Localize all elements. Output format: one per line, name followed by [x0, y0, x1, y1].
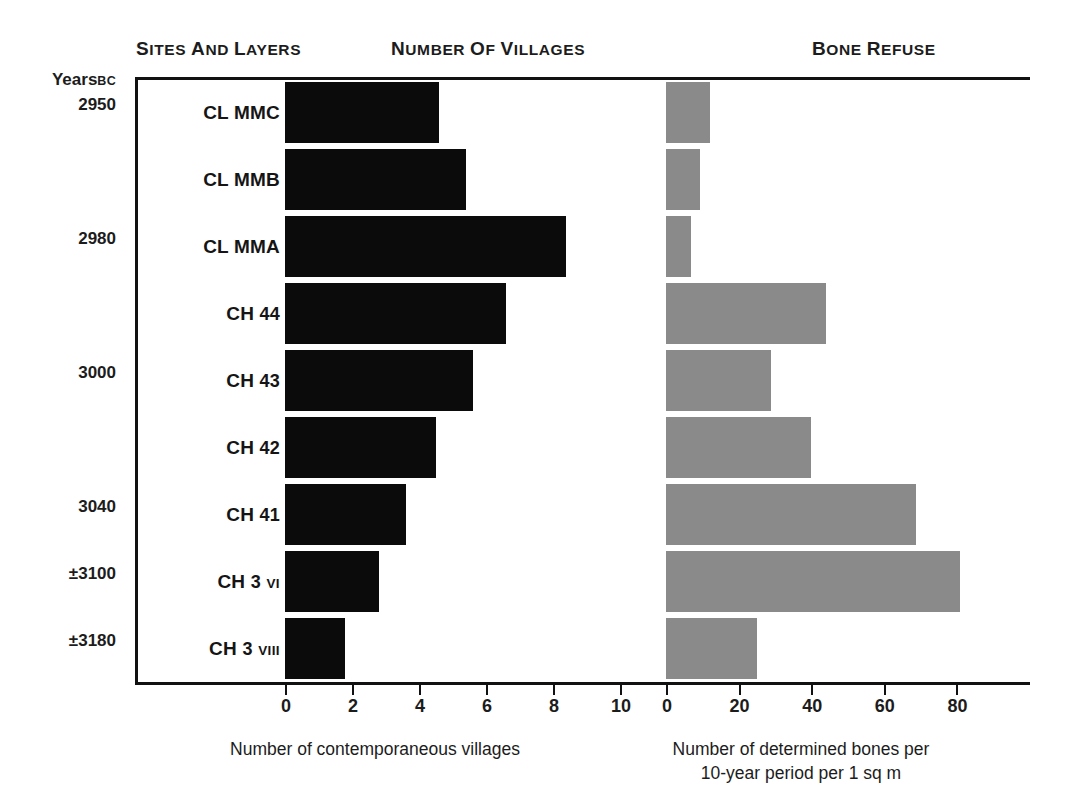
chart-row: CL MMA — [0, 213, 1068, 280]
bar-villages — [285, 216, 566, 277]
bones-axis-tick-mark — [811, 684, 813, 695]
row-label-ch: CH 42 — [150, 437, 280, 459]
bones-axis-tick-label: 40 — [802, 696, 822, 717]
caption-villages: Number of contemporaneous villages — [215, 738, 535, 762]
bar-villages — [285, 283, 506, 344]
bar-villages — [285, 350, 473, 411]
bones-axis-tick-mark — [956, 684, 958, 695]
bar-bone-refuse — [666, 149, 700, 210]
chart-row: CL MMB — [0, 146, 1068, 213]
chart-row: CH 42 — [0, 414, 1068, 481]
bones-axis-tick-label: 80 — [947, 696, 967, 717]
row-label-ch: CH 3 VI — [150, 571, 280, 593]
bar-bone-refuse — [666, 417, 811, 478]
chart-row: CH 43 — [0, 347, 1068, 414]
column-heading-bone-refuse: BONE REFUSE — [812, 38, 936, 60]
bones-axis-tick-mark — [884, 684, 886, 695]
chart-row: CL MMC — [0, 79, 1068, 146]
villages-axis-tick-mark — [486, 684, 488, 695]
row-label-ch: CH 43 — [150, 370, 280, 392]
bar-villages — [285, 149, 466, 210]
bar-bone-refuse — [666, 350, 771, 411]
chart-row: CH 41 — [0, 481, 1068, 548]
bones-axis-tick-label: 0 — [662, 696, 672, 717]
bar-villages — [285, 417, 436, 478]
chart-row: CH 44 — [0, 280, 1068, 347]
chart-figure: SITES aND LAYERS NUMBER oF VILLAGES BONE… — [0, 0, 1068, 794]
bar-villages — [285, 82, 439, 143]
villages-axis-tick-mark — [620, 684, 622, 695]
villages-axis-tick-label: 10 — [611, 696, 631, 717]
bar-bone-refuse — [666, 484, 916, 545]
row-label-ch: CH 44 — [150, 303, 280, 325]
bar-bone-refuse — [666, 216, 691, 277]
chart-row: CH 3 VI — [0, 548, 1068, 615]
villages-axis-tick-label: 8 — [549, 696, 559, 717]
caption-bones-line2: 10-year period per 1 sq m — [636, 762, 966, 786]
bar-bone-refuse — [666, 283, 826, 344]
villages-axis-tick-mark — [352, 684, 354, 695]
bones-axis-tick-label: 60 — [875, 696, 895, 717]
caption-bones-line1: Number of determined bones per — [636, 738, 966, 762]
bar-bone-refuse — [666, 82, 710, 143]
villages-axis-tick-label: 0 — [281, 696, 291, 717]
chart-row: CH 3 VIII — [0, 615, 1068, 682]
row-label-ch: CH 41 — [150, 504, 280, 526]
bones-axis-tick-label: 20 — [730, 696, 750, 717]
row-label-ch: CH 3 VIII — [150, 638, 280, 660]
column-heading-number-of-villages: NUMBER oF VILLAGES — [391, 38, 585, 60]
bar-bone-refuse — [666, 618, 757, 679]
bones-axis-tick-mark — [739, 684, 741, 695]
row-label-cl-mmb: CL MMB — [150, 169, 280, 191]
villages-axis-tick-mark — [553, 684, 555, 695]
villages-axis-tick-label: 2 — [348, 696, 358, 717]
column-heading-sites-and-layers: SITES aND LAYERS — [136, 38, 301, 60]
villages-axis-tick-label: 4 — [415, 696, 425, 717]
bar-bone-refuse — [666, 551, 960, 612]
villages-axis-tick-mark — [419, 684, 421, 695]
bar-villages — [285, 618, 345, 679]
row-label-cl-mmc: CL MMC — [150, 102, 280, 124]
bar-villages — [285, 484, 406, 545]
axis-bottom-rule — [135, 682, 1030, 685]
caption-bones: Number of determined bones per 10-year p… — [636, 738, 966, 785]
row-label-cl-mma: CL MMA — [150, 236, 280, 258]
villages-axis-tick-label: 6 — [482, 696, 492, 717]
bar-villages — [285, 551, 379, 612]
bones-axis-tick-mark — [666, 684, 668, 695]
chart-rows: CL MMCCL MMBCL MMACH 44CH 43CH 42CH 41CH… — [0, 79, 1068, 682]
villages-axis-tick-mark — [285, 684, 287, 695]
